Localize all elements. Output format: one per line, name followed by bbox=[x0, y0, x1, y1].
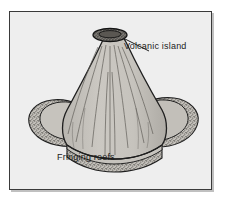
label-volcanic-island: Volcanic island bbox=[124, 41, 187, 51]
summit-crater bbox=[93, 29, 127, 42]
volcano-cone bbox=[63, 33, 167, 159]
label-fringing-reefs: Fringing reefs bbox=[57, 152, 115, 162]
figure-frame: Volcanic island Fringing reefs bbox=[9, 11, 212, 190]
volcanic-island-illustration bbox=[10, 12, 211, 189]
